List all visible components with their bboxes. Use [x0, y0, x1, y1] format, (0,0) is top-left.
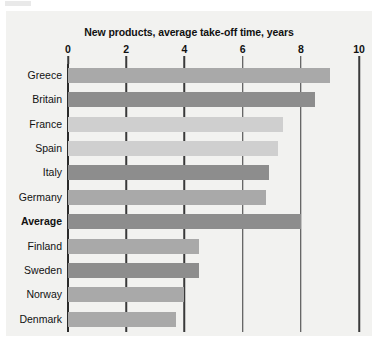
bar-row: Italy — [68, 161, 359, 185]
x-axis-tick-2 — [125, 56, 127, 64]
scan-artifact — [5, 1, 31, 6]
bar-spain — [68, 141, 278, 156]
chart-container: New products, average take-off time, yea… — [6, 11, 372, 336]
bar-row: Sweden — [68, 259, 359, 283]
category-label-denmark: Denmark — [19, 312, 62, 327]
x-axis-tick-label-2: 2 — [123, 43, 129, 55]
x-axis-tick-label-10: 10 — [353, 43, 365, 55]
bar-finland — [68, 239, 199, 254]
x-axis-tick-8 — [300, 56, 302, 64]
x-axis-tick-10 — [358, 56, 360, 64]
bar-row: Norway — [68, 283, 359, 307]
bar-row: Greece — [68, 64, 359, 88]
x-axis-tick-label-4: 4 — [181, 43, 187, 55]
bar-row: Spain — [68, 137, 359, 161]
bar-row: Denmark — [68, 308, 359, 332]
bar-row: Germany — [68, 186, 359, 210]
bar-germany — [68, 190, 266, 205]
category-label-average: Average — [21, 214, 62, 229]
chart-title: New products, average take-off time, yea… — [6, 26, 372, 38]
bar-norway — [68, 287, 184, 302]
x-axis-tick-label-8: 8 — [298, 43, 304, 55]
bar-britain — [68, 92, 315, 107]
category-label-norway: Norway — [26, 287, 62, 302]
category-label-sweden: Sweden — [24, 263, 62, 278]
category-label-finland: Finland — [28, 239, 62, 254]
plot-area: 0246810GreeceBritainFranceSpainItalyGerm… — [68, 64, 359, 332]
bar-france — [68, 117, 283, 132]
category-label-britain: Britain — [32, 92, 62, 107]
x-axis-tick-0 — [67, 56, 69, 64]
category-label-greece: Greece — [28, 68, 62, 83]
category-label-spain: Spain — [35, 141, 62, 156]
bar-row: Average — [68, 210, 359, 234]
category-label-france: France — [29, 117, 62, 132]
x-axis-tick-label-6: 6 — [240, 43, 246, 55]
x-axis-tick-6 — [242, 56, 244, 64]
category-label-germany: Germany — [19, 190, 62, 205]
bar-row: Britain — [68, 88, 359, 112]
x-axis-tick-4 — [184, 56, 186, 64]
x-axis-tick-label-0: 0 — [65, 43, 71, 55]
category-label-italy: Italy — [43, 165, 62, 180]
bar-average — [68, 214, 301, 229]
bar-denmark — [68, 312, 176, 327]
bar-greece — [68, 68, 330, 83]
bar-row: Finland — [68, 235, 359, 259]
bar-row: France — [68, 113, 359, 137]
bar-italy — [68, 165, 269, 180]
bar-sweden — [68, 263, 199, 278]
